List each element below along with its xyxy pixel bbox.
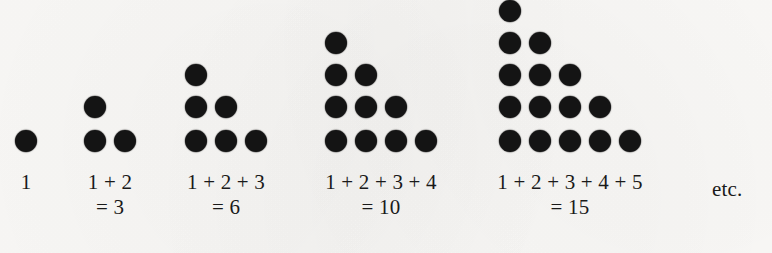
dot xyxy=(499,96,521,118)
dot xyxy=(619,130,641,152)
dot xyxy=(589,130,611,152)
dot xyxy=(529,64,551,86)
dot xyxy=(559,130,581,152)
dot xyxy=(499,32,521,54)
dot xyxy=(529,96,551,118)
dot xyxy=(499,0,521,22)
etc-label: etc. xyxy=(712,177,743,202)
dot xyxy=(529,32,551,54)
caption-group-5: 1 + 2 + 3 + 4 + 5 = 15 xyxy=(420,170,720,220)
dot xyxy=(559,96,581,118)
dot xyxy=(499,130,521,152)
dot xyxy=(499,64,521,86)
dot xyxy=(559,64,581,86)
caption-result-5: = 15 xyxy=(420,195,720,220)
dot xyxy=(529,130,551,152)
caption-sum-5: 1 + 2 + 3 + 4 + 5 xyxy=(420,170,720,195)
dot xyxy=(589,96,611,118)
triangular-numbers-figure: 1 1 + 2 = 3 1 + 2 + 3 = 6 1 + 2 + 3 + 4 … xyxy=(0,0,772,253)
